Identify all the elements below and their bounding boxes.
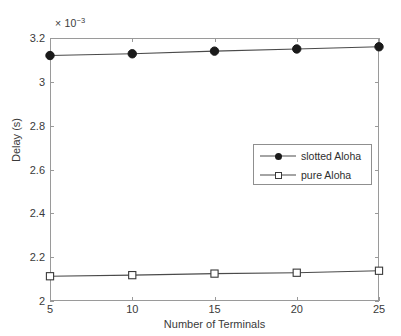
data-point-marker-filled-circle [210,47,218,55]
legend-marker-open-square-icon [258,166,298,184]
x-tick-label: 25 [373,303,385,315]
data-point-marker-filled-circle [375,43,383,51]
x-tick-label: 20 [291,303,303,315]
data-series [46,43,383,60]
data-point-marker-filled-circle [128,50,136,58]
x-tick-label: 5 [47,303,53,315]
data-point-marker-filled-circle [46,51,54,59]
chart-figure: × 10−3 22.22.42.62.833.2 510152025 Numbe… [0,0,401,336]
data-point-marker-filled-circle [293,45,301,53]
legend-entry-pure-aloha: pure Aloha [254,165,373,185]
data-point-marker-open-square [293,269,300,276]
data-point-marker-open-square [375,267,382,274]
data-point-marker-open-square [46,273,53,280]
data-point-marker-open-square [211,270,218,277]
legend-label: pure Aloha [298,169,351,181]
x-tick-label: 15 [208,303,220,315]
legend-marker-filled-circle-icon [258,147,298,165]
legend-entry-slotted-aloha: slotted Aloha [254,146,373,166]
data-series [46,267,382,280]
x-tick-label: 10 [126,303,138,315]
x-axis-title: Number of Terminals [50,318,379,330]
y-axis-title: Delay (s) [10,92,22,188]
data-point-marker-open-square [129,272,136,279]
chart-legend: slotted Aloha pure Aloha [253,144,372,185]
legend-label: slotted Aloha [298,150,361,162]
